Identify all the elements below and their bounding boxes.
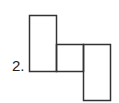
rectangle-figure bbox=[0, 0, 119, 103]
tall-right-rect bbox=[84, 45, 111, 101]
tall-left-rect bbox=[30, 16, 57, 72]
middle-square bbox=[57, 45, 84, 72]
